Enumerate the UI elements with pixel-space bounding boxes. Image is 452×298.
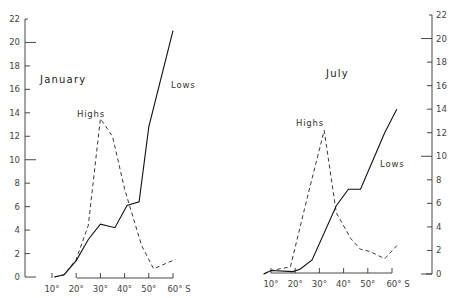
january-y-axis: 0246810121416182022	[9, 14, 36, 282]
y-tick-label: 10	[436, 151, 447, 161]
y-tick-label: 18	[436, 57, 447, 67]
y-tick-label: 18	[9, 61, 20, 71]
y-tick-label: 0	[15, 272, 20, 282]
pressure-highs-lows-chart: 024681012141618202210°20°30°40°50°60° S …	[0, 0, 452, 298]
july-lows-label: Lows	[380, 159, 404, 169]
july-highs-label: Highs	[296, 118, 324, 128]
y-tick-label: 6	[15, 202, 20, 212]
y-tick-label: 8	[15, 178, 20, 188]
january-title: January	[39, 74, 86, 85]
july-title: July	[325, 68, 349, 79]
x-tick-label: 10°	[263, 279, 278, 289]
y-tick-label: 20	[9, 37, 20, 47]
january-lows-label: Lows	[171, 80, 195, 90]
y-tick-label: 12	[436, 128, 447, 138]
x-tick-label: 30°	[93, 284, 108, 294]
x-tick-label: 60° S	[167, 284, 190, 294]
y-tick-label: 12	[9, 131, 20, 141]
y-tick-label: 22	[436, 10, 447, 20]
x-tick-label: 60° S	[386, 279, 409, 289]
january-x-axis: 10°20°30°40°50°60° S	[44, 273, 190, 294]
january-highs-line	[54, 119, 175, 277]
x-tick-label: 20°	[288, 279, 303, 289]
july-panel: 024681012141618202210°20°30°40°50°60° S	[263, 10, 446, 289]
y-tick-label: 6	[436, 198, 441, 208]
x-tick-label: 50°	[360, 279, 375, 289]
y-tick-label: 14	[9, 108, 20, 118]
january-panel: 024681012141618202210°20°30°40°50°60° S	[9, 14, 190, 294]
x-tick-label: 40°	[336, 279, 351, 289]
y-tick-label: 2	[15, 249, 20, 259]
y-tick-label: 22	[9, 14, 20, 24]
x-tick-label: 10°	[44, 284, 59, 294]
y-tick-label: 0	[436, 269, 441, 279]
y-tick-label: 10	[9, 155, 20, 165]
january-highs-label: Highs	[77, 109, 105, 119]
y-tick-label: 20	[436, 34, 447, 44]
y-tick-label: 4	[15, 225, 20, 235]
y-tick-label: 4	[436, 222, 441, 232]
july-lows-line	[264, 109, 397, 274]
january-lows-line	[54, 31, 173, 277]
y-tick-label: 16	[9, 84, 20, 94]
x-tick-label: 50°	[141, 284, 156, 294]
y-tick-label: 2	[436, 245, 441, 255]
july-y-axis: 0246810121416182022	[421, 10, 447, 279]
x-tick-label: 40°	[117, 284, 132, 294]
x-tick-label: 20°	[69, 284, 84, 294]
x-tick-label: 30°	[312, 279, 327, 289]
y-tick-label: 8	[436, 175, 441, 185]
y-tick-label: 16	[436, 81, 447, 91]
y-tick-label: 14	[436, 104, 447, 114]
